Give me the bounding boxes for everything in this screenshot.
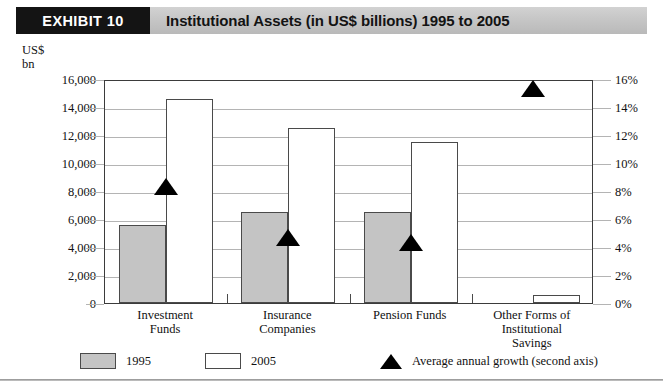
bar-1995: [119, 225, 166, 303]
y-axis-tick-label-right: 14%: [615, 101, 663, 116]
y-axis-tick-right: [593, 248, 611, 249]
y-axis-tick-left: [86, 108, 104, 109]
y-axis-tick-left: [86, 164, 104, 165]
legend-label: Average annual growth (second axis): [412, 354, 598, 369]
legend-item: 2005: [205, 349, 276, 373]
y-axis-tick-label-right: 8%: [615, 185, 663, 200]
category-separator: [227, 294, 228, 303]
category-separator: [350, 294, 351, 303]
y-axis-tick-left: [86, 192, 104, 193]
growth-marker: [276, 229, 300, 246]
y-axis-tick-right: [593, 108, 611, 109]
y-axis-right-labels: 16%14%12%10%8%6%4%2%0%: [615, 0, 663, 388]
y-axis-tick-label-right: 2%: [615, 269, 663, 284]
y-axis-tick-left: [86, 304, 104, 305]
y-axis-tick-right: [593, 136, 611, 137]
legend-item: 1995: [80, 349, 151, 373]
y-axis-tick-left: [86, 248, 104, 249]
y-axis-tick-right: [593, 276, 611, 277]
gray-square-swatch: [80, 353, 116, 369]
y-axis-tick-label-right: 16%: [615, 73, 663, 88]
bar-2005: [411, 142, 458, 303]
exhibit-title: Institutional Assets (in US$ billions) 1…: [166, 7, 510, 34]
category-separator: [472, 294, 473, 303]
x-axis-category-label: Investment Funds: [95, 308, 235, 336]
bar-1995: [241, 212, 288, 303]
legend-label: 2005: [251, 354, 276, 369]
y-axis-tick-left: [86, 80, 104, 81]
y-axis-tick-right: [593, 80, 611, 81]
legend-label: 1995: [126, 354, 151, 369]
white-square-swatch: [205, 353, 241, 369]
y-axis-tick-label-right: 6%: [615, 213, 663, 228]
bar-2005: [288, 128, 335, 303]
bar-2005: [166, 99, 213, 303]
chart-legend: 19952005Average annual growth (second ax…: [0, 349, 663, 373]
black-triangle-marker: [380, 354, 402, 369]
growth-marker: [521, 80, 545, 97]
y-axis-tick-left: [86, 136, 104, 137]
bar-1995: [364, 212, 411, 303]
y-axis-tick-left: [86, 276, 104, 277]
y-axis-tick-right: [593, 220, 611, 221]
y-axis-tick-right: [593, 304, 611, 305]
y-axis-tick-left: [86, 220, 104, 221]
legend-item: Average annual growth (second axis): [380, 349, 598, 373]
x-axis-category-label: Other Forms of Institutional Savings: [462, 308, 602, 350]
chart-plot-area: [104, 80, 593, 304]
y-axis-tick-label-right: 10%: [615, 157, 663, 172]
y-axis-tick-label-right: 4%: [615, 241, 663, 256]
x-axis-category-label: Insurance Companies: [217, 308, 357, 336]
y-axis-tick-right: [593, 164, 611, 165]
y-axis-tick-label-right: 0%: [615, 297, 663, 312]
growth-marker: [154, 178, 178, 195]
footer-rule: [0, 379, 663, 381]
x-axis-category-label: Pension Funds: [340, 308, 480, 322]
y-axis-left-labels: 16,00014,00012,00010,0008,0006,0004,0002…: [0, 0, 96, 388]
bar-2005: [533, 295, 580, 303]
y-axis-tick-label-right: 12%: [615, 129, 663, 144]
y-axis-tick-right: [593, 192, 611, 193]
growth-marker: [399, 234, 423, 251]
